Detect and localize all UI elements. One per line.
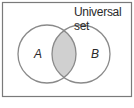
set-a-label: A	[34, 48, 42, 60]
universal-set-label: Universal set	[74, 5, 134, 33]
set-b-label: B	[91, 48, 99, 60]
